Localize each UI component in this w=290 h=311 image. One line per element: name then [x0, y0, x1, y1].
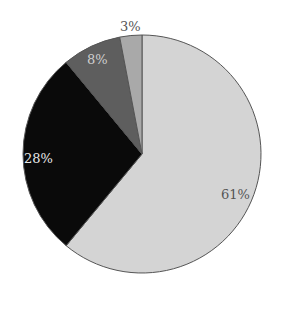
- pie-slices: [23, 35, 261, 273]
- slice-label-61: 61%: [221, 187, 250, 202]
- pie-chart-svg: 61% 28% 8% 3%: [0, 0, 290, 311]
- slice-label-28: 28%: [24, 151, 53, 166]
- slice-label-8: 8%: [87, 52, 108, 67]
- pie-chart: 61% 28% 8% 3%: [0, 0, 290, 311]
- slice-label-3: 3%: [120, 19, 141, 34]
